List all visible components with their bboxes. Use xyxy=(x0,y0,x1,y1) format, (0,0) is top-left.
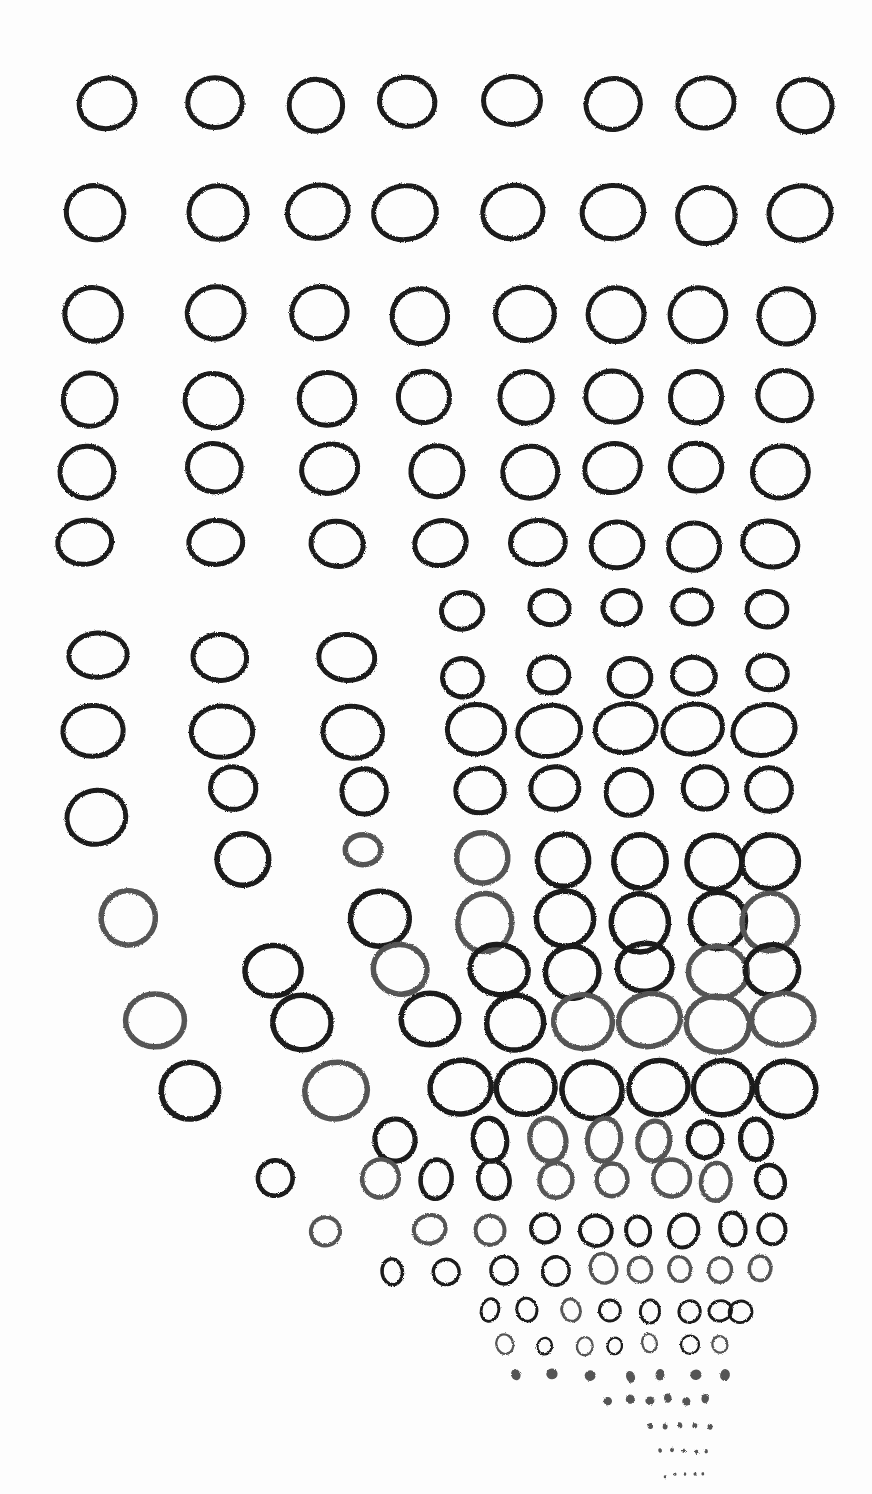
crayon-circle xyxy=(75,73,140,133)
crayon-circle xyxy=(535,831,592,889)
crayon-circle xyxy=(55,517,114,567)
crayon-circle xyxy=(408,443,465,499)
crayon-dot xyxy=(749,1255,772,1281)
crayon-circle xyxy=(754,284,818,349)
crayon-dot xyxy=(624,1215,651,1247)
crayon-circle xyxy=(62,784,132,850)
crayon-circle xyxy=(61,704,124,758)
crayon-circle xyxy=(499,443,561,502)
crayon-dot xyxy=(640,1299,660,1323)
crayon-dot xyxy=(719,1368,731,1382)
crayon-dot xyxy=(256,1158,295,1198)
crayon-dot xyxy=(692,1423,698,1429)
crayon-dot xyxy=(576,1212,615,1249)
crayon-circles-artwork xyxy=(0,0,872,1494)
crayon-dot xyxy=(658,1448,663,1453)
crayon-circle xyxy=(614,835,667,888)
crayon-circle xyxy=(691,1058,755,1117)
crayon-dot xyxy=(663,1475,667,1478)
crayon-circle xyxy=(61,180,130,246)
crayon-dot xyxy=(603,1396,613,1405)
crayon-circle xyxy=(390,287,450,346)
crayon-circle xyxy=(59,368,121,430)
crayon-circle xyxy=(484,76,541,124)
crayon-circle xyxy=(682,830,748,895)
crayon-circle xyxy=(543,944,601,1000)
crayon-circle xyxy=(690,891,747,949)
crayon-circle xyxy=(493,1057,558,1118)
crayon-dot xyxy=(694,1449,699,1454)
crayon-circle xyxy=(348,889,411,948)
crayon-circle xyxy=(667,285,729,345)
crayon-dot xyxy=(585,1116,624,1163)
crayon-dot xyxy=(536,1336,554,1355)
crayon-circle xyxy=(214,830,273,888)
crayon-circle xyxy=(509,519,566,566)
crayon-circle xyxy=(61,284,124,345)
crayon-dot xyxy=(627,1256,652,1283)
crayon-dot xyxy=(710,1334,729,1354)
crayon-circle xyxy=(683,767,727,810)
crayon-dot xyxy=(681,1396,691,1406)
crayon-dot xyxy=(514,1296,539,1323)
crayon-circle xyxy=(345,834,381,865)
crayon-dot xyxy=(666,1254,693,1283)
crayon-circle xyxy=(535,890,595,947)
crayon-dot xyxy=(681,1336,699,1354)
crayon-circle xyxy=(748,441,813,502)
crayon-dot xyxy=(541,1255,571,1287)
crayon-dot xyxy=(650,1157,692,1200)
crayon-circle xyxy=(498,369,555,425)
crayon-dot xyxy=(707,1256,733,1283)
crayon-circle xyxy=(657,698,727,760)
crayon-dot xyxy=(665,1211,703,1252)
crayon-circle xyxy=(741,834,800,890)
crayon-dot xyxy=(473,1214,506,1247)
crayon-dot xyxy=(684,1472,687,1476)
crayon-circle xyxy=(752,365,817,427)
crayon-dot xyxy=(489,1255,519,1286)
crayon-dot xyxy=(676,1298,702,1325)
crayon-circle xyxy=(600,588,643,628)
crayon-dot xyxy=(689,1368,702,1381)
crayon-dot xyxy=(475,1157,514,1201)
crayon-circle xyxy=(747,768,792,812)
crayon-circle xyxy=(674,184,739,247)
crayon-circle xyxy=(683,992,753,1055)
crayon-dot xyxy=(625,1393,637,1405)
crayon-circle xyxy=(271,993,334,1052)
crayon-dot xyxy=(606,1336,624,1355)
crayon-dot xyxy=(373,1117,417,1163)
crayon-dot xyxy=(530,1214,559,1243)
crayon-circle xyxy=(551,992,614,1051)
crayon-circle xyxy=(296,438,363,499)
crayon-circle xyxy=(580,365,646,428)
crayon-circle xyxy=(624,1056,692,1120)
crayon-dot xyxy=(688,1121,723,1158)
crayon-circle xyxy=(455,767,506,814)
crayon-circle xyxy=(187,518,244,566)
crayon-circle xyxy=(340,767,389,816)
crayon-circle xyxy=(401,993,459,1045)
crayon-circle xyxy=(669,370,722,424)
crayon-circle xyxy=(580,438,646,498)
crayon-dot xyxy=(470,1116,510,1164)
crayon-dot xyxy=(718,1211,748,1247)
crayon-dot xyxy=(662,1423,667,1429)
crayon-circle xyxy=(286,281,352,345)
crayon-circle xyxy=(527,587,572,628)
crayon-circle xyxy=(584,283,649,346)
crayon-circle xyxy=(674,74,738,133)
crayon-circle xyxy=(527,655,570,695)
crayon-dot xyxy=(583,1369,596,1382)
crayon-circle xyxy=(752,1057,820,1121)
crayon-circle xyxy=(482,990,549,1055)
crayon-circle xyxy=(188,78,243,128)
crayon-circle xyxy=(68,632,128,678)
crayon-circle xyxy=(765,182,834,244)
crayon-circle xyxy=(288,78,344,132)
crayon-dot xyxy=(625,1370,637,1384)
crayon-dot xyxy=(681,1448,686,1453)
crayon-circle xyxy=(191,706,253,757)
crayon-circle xyxy=(410,515,472,571)
